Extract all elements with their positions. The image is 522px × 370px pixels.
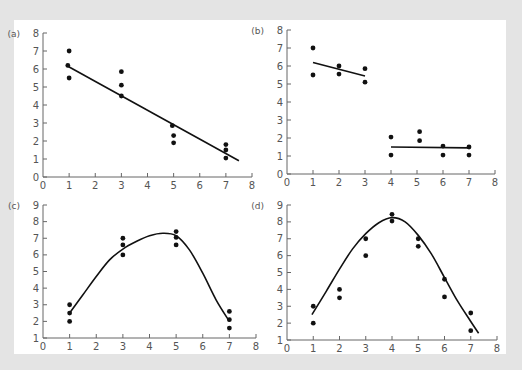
data-point [65, 63, 70, 68]
data-point [468, 328, 473, 333]
data-point [337, 72, 342, 77]
data-point [67, 319, 72, 324]
x-tick-label: 7 [466, 177, 472, 188]
x-tick-label: 0 [284, 343, 290, 354]
chart-b: 012345678012345678(b) [251, 25, 498, 189]
y-tick-label: 1 [277, 151, 283, 162]
x-tick-label: 3 [363, 343, 369, 354]
data-point [171, 133, 176, 138]
y-tick-label: 8 [277, 216, 283, 227]
fit-line [68, 66, 239, 161]
chart-d: 123456789012345678(d) [251, 200, 500, 355]
fit-curve [70, 233, 230, 321]
y-tick-label: 2 [33, 136, 39, 147]
x-tick-label: 6 [440, 177, 446, 188]
x-tick-label: 2 [92, 180, 98, 191]
data-point [170, 123, 175, 128]
data-point [174, 243, 179, 248]
y-tick-label: 2 [277, 318, 283, 329]
data-point [416, 244, 421, 249]
data-point [337, 64, 342, 69]
y-tick-label: 3 [277, 115, 283, 126]
y-tick-label: 5 [277, 267, 283, 278]
x-tick-label: 4 [146, 341, 152, 352]
data-point [120, 236, 125, 241]
data-point [119, 94, 124, 99]
y-tick-label: 7 [33, 233, 39, 244]
data-point [363, 253, 368, 258]
data-point [441, 144, 446, 149]
y-tick-label: 9 [277, 200, 283, 211]
y-tick-label: 4 [33, 283, 39, 294]
y-tick-label: 5 [33, 82, 39, 93]
x-tick-label: 1 [66, 341, 72, 352]
x-tick-label: 2 [336, 177, 342, 188]
y-tick-label: 7 [277, 233, 283, 244]
y-tick-label: 1 [33, 154, 39, 165]
data-point [174, 229, 179, 234]
data-point [223, 148, 228, 153]
data-point [467, 153, 472, 158]
fit-curve [312, 218, 479, 334]
y-tick-label: 2 [277, 133, 283, 144]
data-point [389, 153, 394, 158]
data-point [67, 76, 72, 81]
data-point [417, 138, 422, 143]
data-point [389, 135, 394, 140]
panel-label: (a) [7, 29, 20, 39]
data-point [363, 66, 368, 71]
y-tick-label: 6 [33, 64, 39, 75]
x-tick-label: 6 [197, 180, 203, 191]
data-point [390, 212, 395, 217]
x-tick-label: 3 [362, 177, 368, 188]
y-tick-label: 1 [33, 333, 39, 344]
fit-line [391, 147, 469, 148]
y-tick-label: 2 [33, 316, 39, 327]
chart-c: 123456789012345678(c) [8, 200, 259, 353]
x-tick-label: 5 [414, 177, 420, 188]
y-tick-label: 3 [33, 299, 39, 310]
x-tick-label: 1 [66, 180, 72, 191]
data-point [119, 83, 124, 88]
data-point [441, 153, 446, 158]
x-tick-label: 6 [200, 341, 206, 352]
y-tick-label: 4 [277, 284, 283, 295]
data-point [311, 46, 316, 51]
data-point [337, 295, 342, 300]
x-tick-label: 4 [144, 180, 150, 191]
data-point [363, 236, 368, 241]
x-tick-label: 1 [310, 343, 316, 354]
y-tick-label: 4 [33, 100, 39, 111]
data-point [227, 326, 232, 331]
x-tick-label: 4 [389, 343, 395, 354]
data-point [119, 69, 124, 74]
y-tick-label: 8 [277, 25, 283, 36]
x-tick-label: 7 [468, 343, 474, 354]
y-tick-label: 3 [33, 118, 39, 129]
x-tick-label: 8 [249, 180, 255, 191]
data-point [416, 236, 421, 241]
y-tick-label: 0 [33, 172, 39, 183]
y-tick-label: 5 [33, 266, 39, 277]
data-point [442, 295, 447, 300]
x-tick-label: 2 [93, 341, 99, 352]
panel-label: (c) [8, 201, 20, 211]
y-tick-label: 1 [277, 335, 283, 346]
x-tick-label: 8 [253, 341, 259, 352]
data-point [223, 156, 228, 161]
data-point [120, 243, 125, 248]
data-point [390, 219, 395, 224]
y-tick-label: 5 [277, 79, 283, 90]
y-tick-label: 7 [277, 43, 283, 54]
x-tick-label: 0 [284, 177, 290, 188]
chart-a: 012345678012345678(a) [7, 28, 255, 192]
x-tick-label: 7 [223, 180, 229, 191]
data-point [227, 309, 232, 314]
x-tick-label: 7 [226, 341, 232, 352]
panel-label: (b) [251, 26, 264, 36]
y-tick-label: 6 [277, 61, 283, 72]
x-tick-label: 5 [415, 343, 421, 354]
x-tick-label: 0 [40, 180, 46, 191]
panel-label: (d) [251, 201, 264, 211]
x-tick-label: 8 [494, 343, 500, 354]
